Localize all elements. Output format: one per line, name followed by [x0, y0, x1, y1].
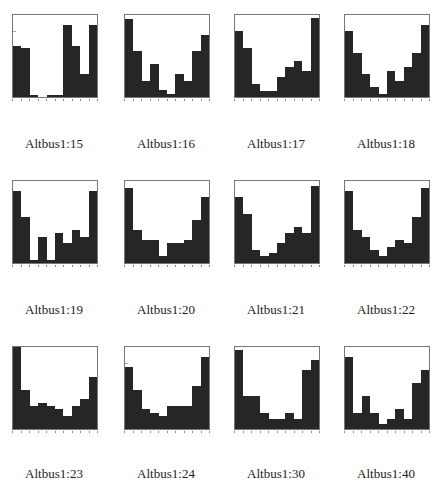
- x-tick: [29, 265, 30, 267]
- x-tick: [192, 99, 193, 101]
- histogram-bar: [395, 240, 403, 263]
- x-tick: [89, 99, 90, 101]
- x-tick: [268, 431, 269, 433]
- histogram-bar: [387, 419, 395, 429]
- x-tick: [209, 265, 210, 267]
- histogram-bar: [184, 81, 192, 97]
- x-tick: [395, 265, 396, 267]
- histogram-bar: [243, 48, 251, 97]
- x-tick: [294, 431, 295, 433]
- x-tick: [319, 99, 320, 101]
- histogram-bar: [175, 74, 183, 97]
- x-tick: [361, 99, 362, 101]
- x-tick: [294, 265, 295, 267]
- histogram-bar: [269, 419, 277, 429]
- histogram-bar: [412, 217, 420, 263]
- x-tick: [311, 431, 312, 433]
- x-tick: [192, 265, 193, 267]
- x-tick: [370, 99, 371, 101]
- x-tick: [243, 431, 244, 433]
- histogram-bar: [302, 370, 310, 429]
- x-tick: [285, 99, 286, 101]
- x-tick: [370, 265, 371, 267]
- histogram-bar: [235, 31, 243, 97]
- histogram-bar: [345, 191, 353, 263]
- histogram-bar: [294, 227, 302, 263]
- x-tick: [285, 431, 286, 433]
- histogram-bar: [184, 406, 192, 429]
- x-tick: [133, 99, 134, 101]
- histogram-bar: [260, 256, 268, 263]
- histogram-bar: [285, 413, 293, 429]
- plot-caption: Altbus1:19: [0, 302, 109, 318]
- histogram-bar: [387, 247, 395, 263]
- histogram-bar: [150, 413, 158, 429]
- histogram-bar: [269, 91, 277, 97]
- x-tick: [404, 431, 405, 433]
- histogram-bar: [379, 94, 387, 97]
- histogram-bar: [159, 256, 167, 263]
- histogram-bar: [412, 383, 420, 429]
- x-tick: [251, 99, 252, 101]
- histogram-bar: [285, 67, 293, 97]
- bar-series: [13, 15, 97, 97]
- x-tick: [141, 265, 142, 267]
- x-tick: [353, 431, 354, 433]
- bar-series: [235, 181, 319, 263]
- x-tick: [378, 431, 379, 433]
- plot-caption: Altbus1:20: [111, 302, 221, 318]
- histogram-bar: [395, 409, 403, 429]
- histogram-bar: [13, 46, 21, 97]
- histogram-bar: [167, 94, 175, 97]
- histogram-bar: [72, 46, 80, 97]
- x-axis-ticks: [344, 99, 430, 101]
- histogram-bar: [55, 233, 63, 263]
- histogram-bar: [167, 406, 175, 429]
- x-tick: [353, 265, 354, 267]
- histogram-bar: [395, 81, 403, 97]
- x-tick: [302, 265, 303, 267]
- histogram-bar: [311, 360, 319, 429]
- x-tick: [167, 99, 168, 101]
- plot-axes: [124, 346, 210, 430]
- x-tick: [387, 99, 388, 101]
- histogram-bar: [362, 74, 370, 97]
- histogram-bar: [142, 409, 150, 429]
- x-tick: [361, 431, 362, 433]
- x-tick: [55, 265, 56, 267]
- histogram-plot: [230, 342, 322, 434]
- histogram-bar: [353, 53, 361, 97]
- histogram-plot: [230, 176, 322, 268]
- x-tick: [124, 431, 125, 433]
- x-tick: [72, 265, 73, 267]
- x-tick: [429, 431, 430, 433]
- histogram-bar: [30, 406, 38, 429]
- x-tick: [46, 265, 47, 267]
- x-axis-ticks: [124, 99, 210, 101]
- histogram-bar: [353, 413, 361, 429]
- x-tick: [319, 265, 320, 267]
- plot-caption: Altbus1:22: [331, 302, 441, 318]
- x-tick: [243, 99, 244, 101]
- x-tick: [353, 99, 354, 101]
- x-tick: [234, 265, 235, 267]
- histogram-bar: [362, 396, 370, 429]
- histogram-bar: [269, 253, 277, 263]
- x-tick: [124, 99, 125, 101]
- histogram-bar: [243, 396, 251, 429]
- histogram-bar: [38, 237, 46, 263]
- histogram-bar: [55, 409, 63, 429]
- bar-series: [125, 181, 209, 263]
- x-tick: [80, 265, 81, 267]
- x-tick: [260, 265, 261, 267]
- x-axis-ticks: [12, 431, 98, 433]
- x-axis-ticks: [234, 431, 320, 433]
- x-tick: [429, 265, 430, 267]
- x-tick: [201, 431, 202, 433]
- x-tick: [421, 265, 422, 267]
- x-tick: [38, 99, 39, 101]
- x-tick: [29, 99, 30, 101]
- x-tick: [429, 99, 430, 101]
- histogram-bar: [260, 91, 268, 97]
- histogram-bar: [125, 188, 133, 263]
